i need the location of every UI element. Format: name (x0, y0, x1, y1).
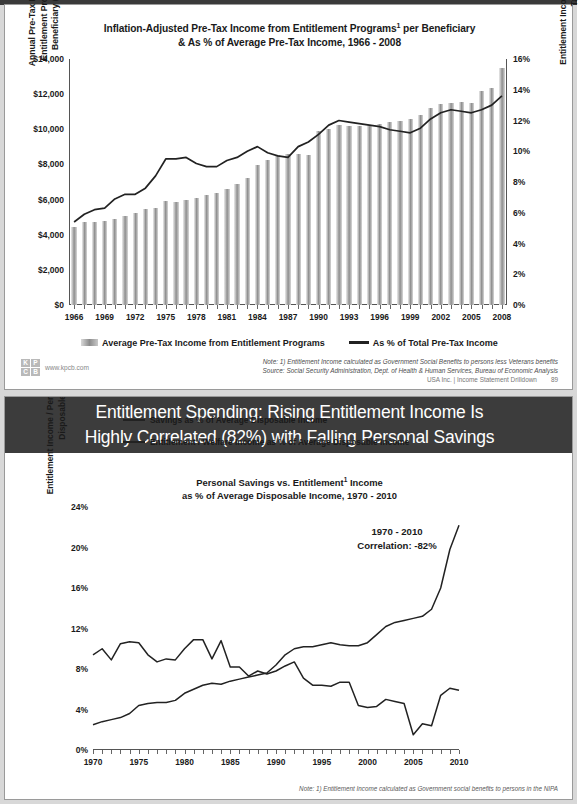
chart2-x-tickmark (93, 750, 94, 754)
chart1-x-tickmark (237, 305, 238, 309)
chart1-x-tickmark (145, 305, 146, 309)
chart2-x-tick-label: 2000 (358, 757, 377, 767)
chart1-y-tick-right: 10% (513, 146, 530, 156)
chart1-y-tick-left: $0 (55, 300, 64, 310)
chart2-x-tick-label: 2005 (404, 757, 423, 767)
chart2-x-tickmark (422, 750, 423, 754)
legend-entitlement-line-icon (123, 441, 145, 443)
chart2-x-tickmark (349, 750, 350, 754)
chart1-x-tickmark (451, 305, 452, 309)
kpcb-url-link[interactable]: www.kpcb.com (45, 364, 89, 371)
chart1-x-tickmark (329, 305, 330, 309)
chart2-x-tickmark (395, 750, 396, 754)
chart2-legend-item-entitlement: Entitlement / Welfare Income as % of Ave… (123, 431, 409, 453)
chart2-x-tickmark (194, 750, 195, 754)
chart1-x-tick-label: 1981 (218, 312, 237, 322)
chart2-x-tickmark (368, 750, 369, 754)
chart1-x-tick-label: 1975 (156, 312, 175, 322)
slide1-title: Inflation-Adjusted Pre-Tax Income from E… (5, 19, 574, 50)
chart1-y-tick-right: 2% (513, 269, 525, 279)
chart2-x-tickmark (404, 750, 405, 754)
chart1-x-tickmark (84, 305, 85, 309)
chart2-x-tick-label: 1975 (129, 757, 148, 767)
chart2-x-tickmark (459, 750, 460, 754)
slide-entitlement-vs-savings: Entitlement Spending: Rising Entitlement… (4, 396, 573, 800)
kpcb-logo-letter-b: B (31, 368, 40, 376)
chart2-legend-item-savings: Savings as % of Average Disposable Incom… (123, 409, 409, 431)
chart1-x-tickmark (482, 305, 483, 309)
chart2-y-tick: 20% (71, 543, 88, 553)
chart2-x-tickmark (358, 750, 359, 754)
chart1-x-tickmark (431, 305, 432, 309)
chart1-y-tick-right: 8% (513, 177, 525, 187)
chart1-x-tickmark (74, 305, 75, 309)
chart1-y-tick-right: 4% (513, 239, 525, 249)
chart2-y-tick: 12% (71, 624, 88, 634)
chart1-x-tick-label: 1969 (95, 312, 114, 322)
chart1-x-tickmark (410, 305, 411, 309)
chart1-y-tick-left: $4,000 (38, 230, 64, 240)
series-line (93, 640, 459, 735)
chart2-x-tickmark (120, 750, 121, 754)
chart2-annotation-period: 1970 - 2010 (357, 525, 436, 539)
chart1-x-tickmark (196, 305, 197, 309)
chart1-legend-line-label: As % of Total Pre-Tax Income (373, 338, 498, 348)
chart2-x-tick-label: 1985 (221, 757, 240, 767)
chart1-y-tick-left: $8,000 (38, 159, 64, 169)
chart2-x-tickmark (102, 750, 103, 754)
slide1-note: Note: 1) Entitlement Income calculated a… (138, 357, 558, 366)
legend-line-swatch-icon (349, 341, 369, 344)
chart2-x-tick-label: 1980 (175, 757, 194, 767)
chart1-legend-bar-label: Average Pre-Tax Income from Entitlement … (102, 338, 325, 348)
chart2-x-tickmark (258, 750, 259, 754)
chart1-x-tickmark (125, 305, 126, 309)
chart1-x-tick-label: 1993 (340, 312, 359, 322)
chart2-annotation-correlation: Correlation: -82% (357, 539, 436, 553)
chart2-x-tickmark (313, 750, 314, 754)
chart1-x-tickmark (94, 305, 95, 309)
chart1-legend: Average Pre-Tax Income from Entitlement … (5, 337, 574, 348)
chart1-x-tick-label: 1990 (309, 312, 328, 322)
slide2-title-line1-head: Personal Savings vs. Entitlement (196, 477, 343, 488)
chart1-x-tickmark (359, 305, 360, 309)
chart2-x-tickmark (166, 750, 167, 754)
chart2-x-tickmark (185, 750, 186, 754)
chart2-x-tick-label: 1990 (267, 757, 286, 767)
chart2-correlation-annotation: 1970 - 2010 Correlation: -82% (357, 525, 436, 553)
chart2-x-tickmark (157, 750, 158, 754)
chart1-y-tick-left: $14,000 (33, 54, 64, 64)
chart2-y-tick: 4% (76, 705, 88, 715)
chart1-y-tick-right: 12% (513, 116, 530, 126)
chart2-x-tickmark (175, 750, 176, 754)
chart2-legend-entitlement-label: Entitlement / Welfare Income as % of Ave… (150, 431, 409, 453)
chart2-y-tick: 24% (71, 502, 88, 512)
chart1-x-tickmark (380, 305, 381, 309)
chart2: 0%4%8%12%16%20%24%1970197519801985199019… (5, 497, 573, 767)
chart1: $0$2,000$4,000$6,000$8,000$10,000$12,000… (5, 51, 574, 336)
chart2-y-tick: 8% (76, 664, 88, 674)
chart1-x-tick-label: 2008 (493, 312, 512, 322)
chart1-plot-area: $0$2,000$4,000$6,000$8,000$10,000$12,000… (69, 59, 507, 305)
chart1-x-tickmark (492, 305, 493, 309)
chart1-x-tick-label: 1999 (401, 312, 420, 322)
chart1-x-tickmark (349, 305, 350, 309)
chart2-x-tickmark (413, 750, 414, 754)
chart2-x-tickmark (267, 750, 268, 754)
chart2-x-tickmark (148, 750, 149, 754)
chart2-y-axis-label: Entitlement Income / Personal Savings as… (45, 396, 68, 509)
chart1-x-tickmark (400, 305, 401, 309)
slide1-notes: Note: 1) Entitlement Income calculated a… (138, 357, 558, 375)
chart2-x-tick-label: 2010 (450, 757, 469, 767)
legend-savings-line-icon (123, 419, 145, 421)
chart1-y-tick-left: $12,000 (33, 89, 64, 99)
chart1-y-tick-right: 14% (513, 85, 530, 95)
chart2-x-tickmark (239, 750, 240, 754)
chart1-x-tick-label: 2002 (431, 312, 450, 322)
chart1-x-tickmark (135, 305, 136, 309)
chart2-legend: Savings as % of Average Disposable Incom… (123, 409, 409, 453)
chart2-x-tickmark (130, 750, 131, 754)
slide-entitlement-income-per-beneficiary: Inflation-Adjusted Pre-Tax Income from E… (4, 4, 573, 390)
chart2-x-tickmark (386, 750, 387, 754)
chart2-x-tickmark (377, 750, 378, 754)
